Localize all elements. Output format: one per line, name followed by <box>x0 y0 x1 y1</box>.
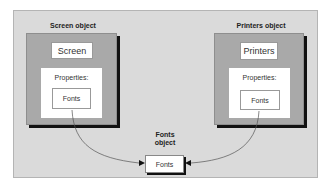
connector-arrows <box>0 0 330 189</box>
arrowhead-left-icon <box>185 160 191 166</box>
printers-to-fonts-connector <box>191 111 259 163</box>
screen-to-fonts-connector <box>72 110 139 163</box>
arrowhead-right-icon <box>139 160 145 166</box>
